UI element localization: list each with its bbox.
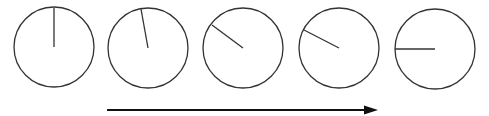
- clock-circle-2: [108, 8, 188, 88]
- radius-hand: [212, 25, 243, 48]
- progression-arrow: [107, 106, 378, 115]
- radius-hand: [141, 9, 148, 48]
- radius-hand: [304, 30, 339, 48]
- clock-circle-5: [395, 9, 475, 89]
- clock-circle-3: [203, 8, 283, 88]
- rotation-sequence-diagram: [0, 0, 489, 116]
- clock-circle-4: [299, 8, 379, 88]
- clock-circle-1: [14, 7, 94, 87]
- arrow-head-icon: [364, 106, 378, 115]
